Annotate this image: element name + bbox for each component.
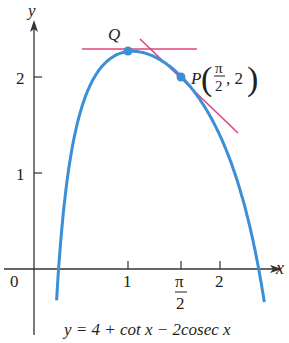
p-den: 2 <box>215 78 223 94</box>
p-right-paren: ) <box>247 60 258 98</box>
origin-label: 0 <box>10 272 19 291</box>
y-axis-label: y <box>26 1 36 20</box>
p-left-paren: ( <box>201 60 212 98</box>
point-p <box>177 73 186 82</box>
equation-label: y = 4 + cot x − 2cosec x <box>62 320 231 339</box>
point-q-label: Q <box>108 25 120 44</box>
xtick-label-1: 1 <box>123 272 132 291</box>
xtick-label-2: 2 <box>215 272 224 291</box>
xtick-label-pi: π <box>175 272 184 291</box>
ytick-label-1: 1 <box>16 165 25 184</box>
xtick-label-pi-den: 2 <box>176 294 185 313</box>
p-num: π <box>215 60 223 76</box>
point-p-label: P <box>190 69 201 88</box>
chart: y x 0 2 1 1 π 2 2 Q P ( π 2 , 2 ) y = 4 … <box>0 0 289 343</box>
p-y: , 2 <box>226 69 243 88</box>
x-axis-label: x <box>275 258 284 278</box>
curve <box>57 51 265 302</box>
point-q <box>124 47 133 56</box>
ytick-label-2: 2 <box>16 69 25 88</box>
